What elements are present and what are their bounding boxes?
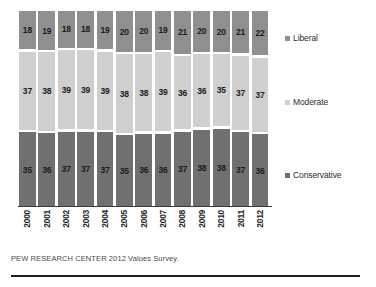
bar-value-label: 35 bbox=[213, 86, 230, 95]
legend-swatch-moderate bbox=[285, 100, 290, 105]
source-note: PEW RESEARCH CENTER 2012 Values Survey. bbox=[11, 254, 179, 263]
bar-column-2010: 203538 bbox=[213, 11, 230, 207]
bar-value-label: 37 bbox=[77, 165, 94, 174]
x-axis-line bbox=[18, 206, 272, 207]
bar-segment-moderate-2012: 37 bbox=[252, 58, 269, 133]
legend-item-liberal[interactable]: Liberal bbox=[285, 33, 318, 43]
bar-value-label: 37 bbox=[58, 165, 75, 174]
bar-segment-conservative-2009: 38 bbox=[193, 130, 210, 207]
bar-value-label: 39 bbox=[97, 87, 114, 96]
x-tick-2012: 2012 bbox=[255, 210, 265, 228]
bar-column-2003: 183937 bbox=[77, 11, 94, 207]
bar-segment-conservative-2003: 37 bbox=[77, 132, 94, 207]
bar-segment-liberal-2008: 21 bbox=[174, 11, 191, 54]
bar-segment-moderate-2008: 36 bbox=[174, 56, 191, 129]
x-tick-2003: 2003 bbox=[81, 210, 91, 228]
bar-segment-liberal-2012: 22 bbox=[252, 11, 269, 55]
bar-segment-liberal-2010: 20 bbox=[213, 11, 230, 52]
bar-segment-conservative-2005: 35 bbox=[116, 135, 133, 207]
bar-segment-moderate-2009: 36 bbox=[193, 54, 210, 127]
bar-segment-conservative-2002: 37 bbox=[58, 132, 75, 207]
legend-label-liberal: Liberal bbox=[293, 33, 318, 43]
x-tick-2011: 2011 bbox=[236, 210, 246, 227]
bar-value-label: 38 bbox=[135, 89, 152, 98]
bar-column-2002: 183937 bbox=[58, 11, 75, 207]
x-tick-2001: 2001 bbox=[42, 210, 52, 228]
bar-value-label: 37 bbox=[174, 165, 191, 174]
x-tick-2007: 2007 bbox=[158, 210, 168, 228]
bar-column-2005: 203835 bbox=[116, 11, 133, 207]
bar-value-label: 37 bbox=[19, 87, 36, 96]
bar-value-label: 37 bbox=[232, 166, 249, 175]
bar-segment-conservative-2000: 35 bbox=[19, 132, 36, 207]
bar-segment-liberal-2009: 20 bbox=[193, 11, 210, 52]
bar-column-2007: 193936 bbox=[155, 11, 172, 207]
bar-segment-conservative-2004: 37 bbox=[97, 132, 114, 207]
bar-segment-liberal-2001: 19 bbox=[38, 11, 55, 50]
bar-value-label: 36 bbox=[155, 166, 172, 175]
bar-value-label: 20 bbox=[193, 27, 210, 36]
x-tick-2010: 2010 bbox=[216, 210, 226, 228]
bar-value-label: 36 bbox=[174, 89, 191, 98]
bar-value-label: 19 bbox=[38, 27, 55, 36]
bar-column-2012: 223736 bbox=[252, 11, 269, 207]
bar-segment-moderate-2001: 38 bbox=[38, 52, 55, 130]
x-tick-2004: 2004 bbox=[100, 210, 110, 228]
x-tick-2006: 2006 bbox=[139, 210, 149, 228]
legend-item-moderate[interactable]: Moderate bbox=[285, 97, 328, 107]
bar-segment-conservative-2011: 37 bbox=[232, 132, 249, 207]
bar-column-2011: 213737 bbox=[232, 11, 249, 207]
bar-segment-conservative-2007: 36 bbox=[155, 134, 172, 207]
bar-value-label: 35 bbox=[19, 166, 36, 175]
bar-value-label: 38 bbox=[193, 164, 210, 173]
legend-swatch-conservative bbox=[285, 173, 290, 178]
legend-label-moderate: Moderate bbox=[293, 97, 328, 107]
bar-value-label: 21 bbox=[232, 28, 249, 37]
bar-value-label: 19 bbox=[97, 26, 114, 35]
bar-segment-liberal-2004: 19 bbox=[97, 11, 114, 49]
x-tick-2000: 2000 bbox=[22, 210, 32, 228]
bar-value-label: 39 bbox=[58, 86, 75, 95]
bar-segment-conservative-2012: 36 bbox=[252, 134, 269, 207]
x-tick-2009: 2009 bbox=[197, 210, 207, 228]
bar-value-label: 22 bbox=[252, 29, 269, 38]
bar-segment-conservative-2010: 38 bbox=[213, 129, 230, 207]
bar-value-label: 35 bbox=[116, 167, 133, 176]
chart-legend: Liberal Moderate Conservative bbox=[285, 0, 376, 210]
bar-value-label: 37 bbox=[252, 91, 269, 100]
bar-segment-liberal-2006: 20 bbox=[135, 11, 152, 52]
bar-segment-liberal-2007: 19 bbox=[155, 11, 172, 50]
bar-value-label: 37 bbox=[232, 89, 249, 98]
bar-segment-conservative-2001: 36 bbox=[38, 133, 55, 207]
chart-plot-area: 1837351938361839371839371939372038352038… bbox=[19, 11, 271, 207]
bar-column-2000: 183735 bbox=[19, 11, 36, 207]
bar-segment-moderate-2006: 38 bbox=[135, 54, 152, 131]
bar-segment-moderate-2007: 39 bbox=[155, 52, 172, 131]
bar-segment-liberal-2011: 21 bbox=[232, 11, 249, 53]
x-tick-2005: 2005 bbox=[119, 210, 129, 228]
bar-value-label: 18 bbox=[77, 25, 94, 34]
bar-value-label: 38 bbox=[116, 90, 133, 99]
bar-segment-liberal-2002: 18 bbox=[58, 11, 75, 48]
bar-value-label: 38 bbox=[213, 164, 230, 173]
bar-value-label: 38 bbox=[38, 87, 55, 96]
bar-value-label: 20 bbox=[135, 27, 152, 36]
bar-value-label: 19 bbox=[155, 26, 172, 35]
bottom-divider bbox=[11, 275, 360, 277]
bar-segment-moderate-2002: 39 bbox=[58, 50, 75, 129]
legend-item-conservative[interactable]: Conservative bbox=[285, 170, 341, 180]
bar-column-2004: 193937 bbox=[97, 11, 114, 207]
bar-column-2009: 203638 bbox=[193, 11, 210, 207]
bar-value-label: 20 bbox=[116, 28, 133, 37]
bar-segment-moderate-2005: 38 bbox=[116, 54, 133, 132]
x-tick-2002: 2002 bbox=[61, 210, 71, 228]
bar-segment-liberal-2005: 20 bbox=[116, 11, 133, 52]
bar-value-label: 37 bbox=[97, 166, 114, 175]
bar-segment-moderate-2000: 37 bbox=[19, 52, 36, 131]
bar-segment-conservative-2008: 37 bbox=[174, 132, 191, 207]
bar-segment-conservative-2006: 36 bbox=[135, 134, 152, 207]
bar-segment-moderate-2011: 37 bbox=[232, 56, 249, 131]
bar-segment-moderate-2010: 35 bbox=[213, 54, 230, 126]
bar-value-label: 39 bbox=[155, 88, 172, 97]
stacked-bar-chart-figure: 1837351938361839371839371939372038352038… bbox=[0, 0, 376, 287]
